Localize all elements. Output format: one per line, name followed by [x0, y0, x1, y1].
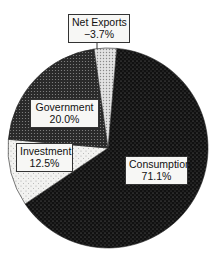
label-net-exports-name: Net Exports [72, 16, 126, 28]
label-government-value: 20.0% [34, 113, 95, 125]
label-government: Government 20.0% [30, 99, 99, 128]
label-investment-name: Investment [20, 145, 69, 157]
label-investment-value: 12.5% [20, 157, 69, 169]
label-consumption-value: 71.1% [129, 170, 184, 182]
label-investment: Investment 12.5% [16, 143, 73, 172]
label-consumption-name: Consumption [129, 158, 184, 170]
label-net-exports: Net Exports −3.7% [68, 14, 130, 43]
label-government-name: Government [34, 101, 95, 113]
label-net-exports-value: −3.7% [72, 28, 126, 40]
label-consumption: Consumption 71.1% [125, 156, 188, 185]
